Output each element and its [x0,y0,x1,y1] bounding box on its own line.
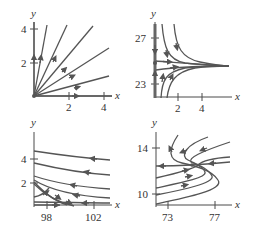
plot-a-equilibrium [32,94,36,98]
plot-d-ytick: 14 [137,142,149,154]
plot-b-x-label: x [234,90,240,102]
plot-b-ytick: 27 [135,32,147,44]
plot-a-ytick: 2 [21,57,27,69]
plot-c: y x 4 2 98 102 [21,116,120,223]
plot-d-xtick: 73 [162,211,174,223]
plot-a: y x 4 2 2 4 [21,7,120,113]
plot-a-xtick: 4 [101,101,107,113]
plot-b-ytick: 23 [135,78,147,90]
plot-d: y x 14 10 73 77 [137,116,240,223]
plot-c-ytick: 2 [21,177,27,189]
plot-d-crossing-point [190,163,194,167]
plot-a-x-label: x [114,89,120,101]
plot-d-xtick: 77 [209,211,221,223]
plot-b: y x 27 23 2 4 [135,7,240,114]
plot-b-xtick: 2 [175,102,181,114]
plot-b-equilibrium [153,61,157,65]
plot-d-x-label: x [234,198,240,210]
plot-c-xtick: 98 [41,211,53,223]
plot-c-xtick: 102 [85,211,102,223]
phase-portraits-figure: y x 4 2 2 4 y x 27 23 2 4 [0,0,253,230]
plot-c-x-label: x [114,198,120,210]
plot-d-ytick: 10 [137,188,149,200]
plot-c-y-label: y [30,116,36,128]
plot-c-ytick: 4 [21,153,27,165]
plot-a-xtick: 2 [66,101,72,113]
plot-b-y-label: y [150,7,156,19]
plot-d-y-label: y [151,116,157,128]
plot-b-xtick: 4 [199,102,205,114]
plot-a-ytick: 4 [21,23,27,35]
plot-a-y-label: y [30,7,36,19]
